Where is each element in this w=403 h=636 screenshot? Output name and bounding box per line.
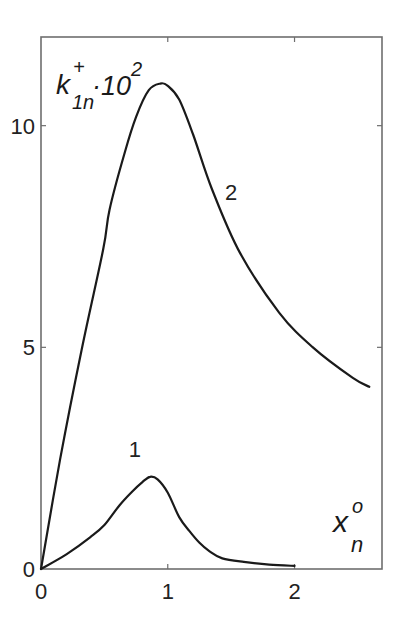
y-tick-label: 10: [11, 114, 35, 139]
x-tick-label: 2: [288, 579, 300, 604]
x-tick-label: 0: [35, 579, 47, 604]
x-label-base: x: [331, 505, 349, 538]
series-1-line: [41, 477, 295, 569]
y-tick-label: 5: [23, 335, 35, 360]
y-label-base: k: [56, 69, 72, 100]
series-2-line: [41, 83, 369, 569]
y-label-sub: 1n: [72, 91, 94, 113]
x-tick-label: 1: [162, 579, 174, 604]
y-tick-label: 0: [23, 557, 35, 582]
y-label-factor-sup: 2: [130, 58, 142, 80]
series-2-label: 2: [225, 180, 237, 205]
x-label-sup: o: [352, 495, 363, 517]
axis-ticks: 0120510: [11, 37, 382, 604]
y-axis-label: k + 1n ·10 2: [56, 56, 142, 113]
chart: 0120510 k + 1n ·10 2 x o n 1 2: [0, 0, 403, 636]
series-lines: [41, 83, 369, 569]
y-label-factor: ·10: [92, 71, 131, 101]
x-label-sub: n: [351, 532, 363, 557]
y-label-sup: +: [73, 56, 85, 78]
series-1-label: 1: [129, 437, 141, 462]
x-axis-label: x o n: [331, 495, 363, 557]
